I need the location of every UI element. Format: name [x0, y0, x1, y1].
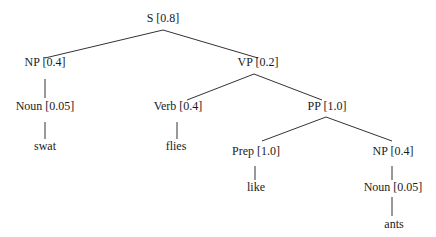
edge-vp-verb	[187, 74, 254, 100]
node-np1: NP [0.4]	[25, 55, 66, 69]
edge-vp-pp	[254, 74, 322, 100]
node-flies: flies	[166, 139, 187, 153]
node-vp: VP [0.2]	[238, 55, 279, 69]
node-noun1: Noun [0.05]	[16, 99, 75, 113]
node-s: S [0.8]	[147, 11, 180, 25]
node-np2: NP [0.4]	[373, 144, 414, 158]
node-prep: Prep [1.0]	[232, 144, 280, 158]
edge-s-np1	[45, 30, 163, 58]
node-swat: swat	[34, 139, 57, 153]
edge-pp-np2	[326, 117, 392, 141]
node-like: like	[247, 180, 265, 194]
tree-edges	[45, 30, 392, 216]
tree-nodes: S [0.8]NP [0.4]VP [0.2]Noun [0.05]Verb […	[16, 11, 423, 231]
node-noun2: Noun [0.05]	[364, 180, 423, 194]
node-verb: Verb [0.4]	[154, 99, 203, 113]
edge-pp-prep	[262, 117, 326, 141]
node-ants: ants	[384, 217, 404, 231]
edge-s-vp	[163, 30, 258, 58]
parse-tree-diagram: S [0.8]NP [0.4]VP [0.2]Noun [0.05]Verb […	[0, 0, 436, 237]
node-pp: PP [1.0]	[308, 99, 347, 113]
